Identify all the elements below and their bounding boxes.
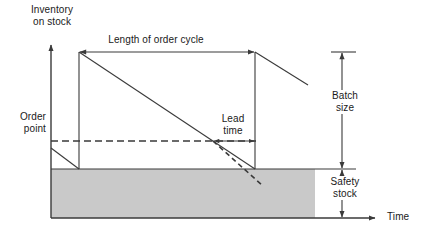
batch-size-label: Batch size (320, 90, 370, 114)
inventory-diagram: Inventory on stock Time Order point Leng… (0, 0, 429, 236)
safety-stock-band (51, 169, 315, 218)
stock-curve-depletion-1 (79, 52, 255, 169)
batch-size-label-line1: Batch (322, 90, 368, 102)
order-point-label-line1: Order (4, 111, 46, 123)
lead-time-label-line1: Lead (214, 113, 252, 125)
safety-stock-label-line2: stock (320, 188, 370, 200)
safety-stock-label: Safety stock (318, 176, 372, 200)
y-axis-label-line2: on stock (22, 16, 82, 28)
safety-stock-label-line1: Safety (320, 176, 370, 188)
order-cycle-label: Length of order cycle (86, 34, 226, 46)
batch-size-label-line2: size (322, 102, 368, 114)
x-axis-label: Time (387, 211, 409, 223)
lead-time-label: Lead time (212, 113, 254, 137)
order-point-label-line2: point (4, 123, 46, 135)
stock-curve-depletion-2 (255, 52, 308, 85)
y-axis-label-line1: Inventory (22, 4, 82, 16)
order-point-label: Order point (4, 111, 46, 135)
stock-curve-initial-depletion (51, 148, 79, 169)
lead-time-label-line2: time (214, 125, 252, 137)
y-axis-label: Inventory on stock (22, 4, 82, 28)
